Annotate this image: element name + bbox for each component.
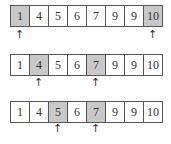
array-cell: 10 xyxy=(143,54,163,76)
pointer-row-2: ↑↑ xyxy=(10,77,170,89)
up-arrow-icon: ↑ xyxy=(29,77,48,89)
up-arrow-icon: ↑ xyxy=(48,123,67,135)
array-cell: 6 xyxy=(67,5,87,27)
array-cell: 10 xyxy=(143,101,163,123)
array-cell: 5 xyxy=(48,54,68,76)
array-cell: 1 xyxy=(10,101,30,123)
pointer-row-1: ↑↑ xyxy=(10,29,170,41)
up-arrow-icon: ↑ xyxy=(86,77,105,89)
array-cell-highlighted: 10 xyxy=(143,5,163,27)
array-cell-highlighted: 7 xyxy=(86,101,106,123)
array-cell: 4 xyxy=(29,5,49,27)
array-cell: 5 xyxy=(48,5,68,27)
array-cell: 6 xyxy=(67,101,87,123)
up-arrow-icon: ↑ xyxy=(10,29,29,41)
up-arrow-icon: ↑ xyxy=(143,29,162,41)
pointer-row-3: ↑↑ xyxy=(10,123,170,135)
array-cell: 1 xyxy=(10,54,30,76)
array-cell-highlighted: 5 xyxy=(48,101,68,123)
array-cell: 9 xyxy=(124,101,144,123)
array-cell: 4 xyxy=(29,101,49,123)
array-row-1: 145679910 xyxy=(10,5,163,27)
array-cell: 6 xyxy=(67,54,87,76)
array-cell: 9 xyxy=(124,54,144,76)
up-arrow-icon: ↑ xyxy=(86,123,105,135)
array-cell: 9 xyxy=(124,5,144,27)
array-row-3: 145679910 xyxy=(10,101,163,123)
array-cell-highlighted: 4 xyxy=(29,54,49,76)
array-cell-highlighted: 1 xyxy=(10,5,30,27)
array-row-2: 145679910 xyxy=(10,54,163,76)
array-cell: 9 xyxy=(105,54,125,76)
array-cell: 9 xyxy=(105,5,125,27)
array-cell: 9 xyxy=(105,101,125,123)
array-cell: 7 xyxy=(86,5,106,27)
array-cell-highlighted: 7 xyxy=(86,54,106,76)
